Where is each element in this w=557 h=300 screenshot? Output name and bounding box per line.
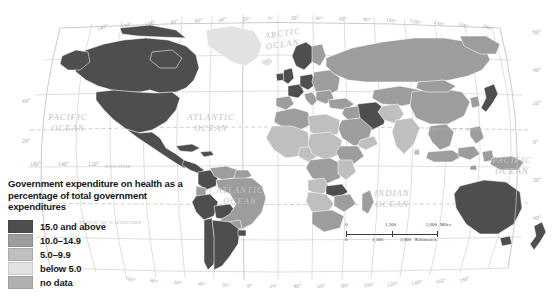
region-korea [470,96,480,108]
latitude-label-right: 40° [533,67,541,73]
legend-swatch-5-to-9 [8,248,33,261]
longitude-label-bottom: 0° [247,282,253,288]
ocean-label-pacific-ocean-west-line2: OCEAN [51,123,85,133]
legend-label: no data [40,277,73,288]
world-map-figure: 140°120°100°80°60°40°20°0°20°40°60°80°10… [0,0,557,300]
scalebar-kilometers-row: 0 1,500 3,000 Kilometers [346,237,458,246]
legend-title: Government expenditure on health as a pe… [8,178,204,213]
region-japan [481,84,498,112]
region-mongolia [416,80,456,92]
map-page: 140°120°100°80°60°40°20°0°20°40°60°80°10… [0,0,557,300]
scalebar-km-start: 0 [345,237,347,242]
scalebar-km-mid: 1,500 [372,237,383,242]
region-iraq-syria [342,106,360,120]
region-indonesia-west [426,150,462,162]
region-argentina [212,220,240,270]
region-hispaniola [200,151,214,157]
longitude-label-top: 160° [457,20,469,29]
longitude-label-bottom: 60° [317,283,325,289]
longitude-label-top: 40° [315,15,323,21]
latitude-label-right: 20° [533,100,541,106]
legend-row: no data [8,276,204,289]
ocean-label-indian-ocean-line2: OCEAN [375,199,409,209]
region-uruguay [238,230,246,236]
legend-label: 15.0 and above [40,221,106,232]
scalebar-miles-start: 0 [345,222,347,227]
legend-rows: 15.0 and above10.0–14.95.0–9.9below 5.0n… [8,220,204,289]
longitude-label-bottom: 20° [269,283,277,289]
legend-swatch-10-to-14 [8,234,33,247]
latitude-label-right: 20° [533,177,541,183]
ocean-label-indian-ocean-line1: INDIAN [373,188,409,198]
latitude-label-right: 40° [533,215,541,221]
legend-swatch-below-5 [8,262,33,275]
region-greenland [206,26,262,66]
region-tasmania [500,236,512,246]
longitude-label-lower-left: 160° [30,161,41,167]
region-finland [312,44,326,66]
ocean-label-pacific-ocean-east-line2: OCEAN [495,166,529,176]
latitude-label-left: 20° [22,138,30,144]
longitude-label-top: 140° [96,22,109,32]
longitude-label-bottom: 40° [293,283,301,289]
latitude-labels-left: 40°20° [22,98,30,144]
map-scalebar: 0 1,500 3,000 Miles 0 1,500 3,000 Kilome… [346,222,458,246]
latitude-label-left: 40° [22,98,30,104]
longitude-label-top: 60° [339,15,348,22]
legend-label: 10.0–14.9 [40,235,81,246]
ocean-label-atlantic-ocean-south-line2: OCEAN [223,196,257,206]
region-south-africa [312,210,344,232]
longitude-label-top: 20° [291,15,299,21]
longitude-label-lower-left: 120° [88,161,99,167]
latitude-labels-left-lower: 160°140°120° [30,161,99,167]
ocean-label-pacific-ocean-west-line1: PACIFIC [47,112,88,122]
latitude-labels-right: 60°40°20°0°20°40° [533,29,541,221]
legend-row: 10.0–14.9 [8,234,204,247]
longitude-label-top: 80° [363,16,372,23]
region-cuba [176,144,200,152]
scalebar-km-end: 3,000 [400,237,411,242]
latitude-label-right: 0° [533,139,538,145]
reference-label-tropic-of-cancer-east: TROPIC OF CANCER [429,127,482,132]
region-papua-islets [470,165,477,170]
map-legend: Government expenditure on health as a pe… [8,178,204,290]
longitude-label-bottom: 100° [363,281,375,288]
legend-row: below 5.0 [8,262,204,275]
legend-swatch-15-and-above [8,220,33,233]
legend-swatch-no-data [8,276,33,289]
latitude-label-right: 60° [533,29,541,35]
longitude-label-top: 40° [218,16,227,23]
region-china [410,88,470,124]
longitude-label-bottom: 160° [435,277,447,285]
region-australia [454,180,522,234]
scalebar-km-unit: Kilometers [415,237,437,242]
legend-row: 15.0 and above [8,220,204,233]
scalebar-miles-end: 3,000 [426,222,437,227]
reference-label-equator: EQUATOR [104,164,131,169]
region-spain-portugal [276,96,294,110]
region-canada-arctic-isles [120,25,186,38]
legend-label: 5.0–9.9 [40,249,71,260]
longitude-label-top: 180° [482,22,495,32]
scalebar-miles-row: 0 1,500 3,000 Miles [346,222,458,231]
legend-label: below 5.0 [40,263,81,274]
region-borneo [458,146,480,160]
legend-row: 5.0–9.9 [8,248,204,261]
longitude-label-top: 20° [242,15,251,22]
longitude-label-bottom: 180° [458,275,470,284]
longitude-label-top: 80° [170,18,179,26]
region-india [392,118,420,154]
region-zimbabwe-mozambique [334,194,356,212]
region-canada [70,38,199,93]
longitude-label-bottom: 80° [341,282,350,289]
ocean-label-atlantic-ocean-north-line1: ATLANTIC [186,112,235,122]
region-sri-lanka [414,149,420,155]
longitude-label-bottom: 120° [387,280,399,288]
longitude-label-bottom: 140° [411,278,423,286]
longitude-label-top: 100° [385,16,397,24]
ocean-label-pacific-ocean-east-line1: PACIFIC [491,155,532,165]
ocean-label-atlantic-ocean-south-line1: ATLANTIC [215,185,264,195]
region-madagascar [362,190,374,214]
scalebar-miles-mid: 1,500 [385,222,396,227]
region-new-zealand [530,222,546,250]
